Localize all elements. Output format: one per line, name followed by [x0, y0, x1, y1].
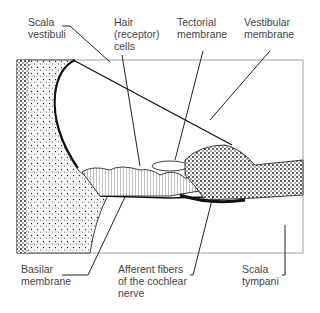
- label-scala-vestibuli: Scala vestibuli: [28, 16, 66, 40]
- label-scala-tympani: Scala tympani: [242, 263, 279, 287]
- label-tectorial-membrane: Tectorial membrane: [177, 16, 227, 40]
- label-afferent-fibers: Afferent fibers of the cochlear nerve: [118, 263, 187, 299]
- tectorial-membrane-shape: [152, 161, 188, 171]
- label-basilar-membrane: Basilar membrane: [21, 263, 71, 287]
- label-vestibular-membrane: Vestibular membrane: [244, 16, 294, 40]
- label-hair-cells: Hair (receptor) cells: [114, 16, 160, 52]
